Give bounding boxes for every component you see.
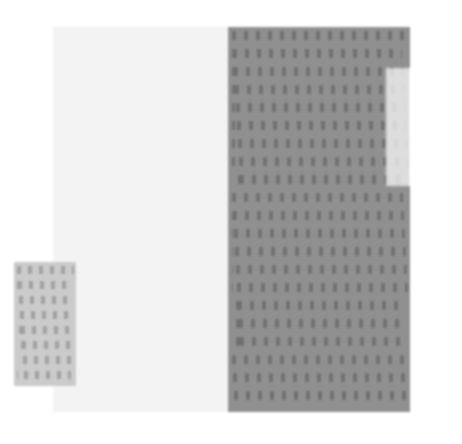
text-line [17,326,74,334]
text-line [232,49,402,58]
text-line [232,31,408,40]
snippet-text-lines [14,262,76,386]
text-line [232,67,403,76]
text-line [232,247,406,256]
document-text-column[interactable] [228,27,410,412]
text-line [17,341,73,349]
document-page[interactable] [53,27,229,412]
translucent-overlay-opaque-part [410,68,444,186]
text-line [232,85,404,94]
text-line [232,319,403,328]
text-line [232,175,402,184]
text-line [232,265,407,274]
text-line [232,301,402,310]
text-line [232,139,407,148]
text-line [232,157,408,166]
text-line [17,371,71,379]
text-line [232,391,407,400]
text-line [17,281,73,289]
text-line [232,283,408,292]
text-line [232,193,403,202]
text-line [232,121,406,130]
text-line [232,103,405,112]
screenshot-canvas [0,0,462,444]
text-line [17,311,71,319]
text-line [232,373,406,382]
text-line [232,211,404,220]
text-line [17,296,72,304]
text-line [232,229,405,238]
text-line [17,266,74,274]
text-snippet-block[interactable] [14,262,76,386]
text-lines [228,27,410,412]
text-line [232,337,404,346]
text-line [17,356,72,364]
text-line [232,355,405,364]
